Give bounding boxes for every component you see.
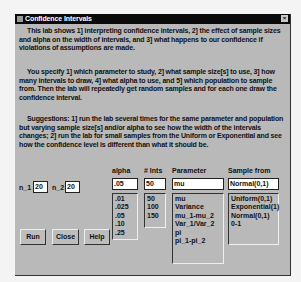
list-item[interactable]: .025: [115, 203, 135, 211]
list-item[interactable]: Exponential(1): [231, 203, 276, 211]
list-item[interactable]: 150: [147, 212, 163, 220]
alpha-list[interactable]: .01 .025 .05 .10 .25: [112, 193, 138, 240]
list-item[interactable]: 100: [147, 203, 163, 211]
confidence-intervals-window: Confidence Intervals × This lab shows 1]…: [15, 14, 291, 276]
sample-from-list[interactable]: Uniform(0,1) Exponential(1) Normal(0,1) …: [228, 193, 279, 245]
list-item[interactable]: Uniform(0,1): [231, 195, 276, 203]
sample-from-header: Sample from: [228, 167, 270, 174]
parameter-header: Parameter: [172, 167, 206, 174]
n2-label: n_2: [52, 184, 64, 191]
parameter-input[interactable]: mu: [172, 178, 224, 190]
list-item[interactable]: .10: [115, 220, 135, 228]
intro-paragraph-3: Suggestions: 1] run the lab several time…: [19, 115, 287, 149]
alpha-input[interactable]: .05: [112, 178, 138, 190]
title-bar[interactable]: Confidence Intervals ×: [15, 14, 290, 24]
help-button[interactable]: Help: [84, 229, 110, 245]
close-window-button[interactable]: ×: [281, 15, 288, 22]
alpha-header: alpha: [112, 167, 130, 174]
list-item[interactable]: pi_1-pi_2: [175, 237, 221, 245]
list-item[interactable]: .25: [115, 229, 135, 237]
parameter-list[interactable]: mu Variance mu_1-mu_2 Var_1/Var_2 pi pi_…: [172, 193, 224, 264]
ints-header: # Ints: [144, 167, 162, 174]
n1-label: n_1: [19, 184, 31, 191]
list-item[interactable]: pi: [175, 229, 221, 237]
ints-list[interactable]: 50 100 150: [144, 193, 166, 228]
intro-paragraph-2: You specify 1] which parameter to study,…: [19, 68, 287, 102]
list-item[interactable]: 50: [147, 195, 163, 203]
list-item[interactable]: .01: [115, 195, 135, 203]
n2-input[interactable]: 20: [65, 181, 80, 193]
list-item[interactable]: mu_1-mu_2: [175, 212, 221, 220]
intro-paragraph-1: This lab shows 1] interpreting confidenc…: [19, 27, 287, 53]
list-item[interactable]: Var_1/Var_2: [175, 220, 221, 228]
close-button[interactable]: Close: [52, 229, 79, 245]
list-item[interactable]: Normal(0,1): [231, 212, 276, 220]
n1-input[interactable]: 20: [33, 181, 48, 193]
ints-input[interactable]: 50: [144, 178, 166, 190]
list-item[interactable]: Variance: [175, 203, 221, 211]
list-item[interactable]: mu: [175, 195, 221, 203]
sample-from-input[interactable]: Normal(0,1): [228, 178, 279, 190]
run-button[interactable]: Run: [20, 229, 46, 245]
list-item[interactable]: .05: [115, 212, 135, 220]
list-item[interactable]: 0-1: [231, 220, 276, 228]
window-title: Confidence Intervals: [25, 14, 92, 24]
system-menu-icon[interactable]: [17, 16, 23, 22]
